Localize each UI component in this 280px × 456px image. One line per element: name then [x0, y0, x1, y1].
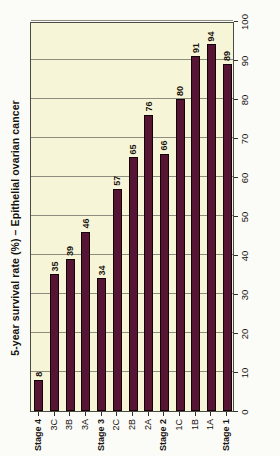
category-axis-tick [148, 412, 149, 416]
category-axis-tick [54, 412, 55, 416]
category-axis-label: 3C [49, 419, 59, 431]
category-axis-tick [210, 412, 211, 416]
bar-slot: 91 [191, 21, 200, 411]
bar-slot: 35 [50, 21, 59, 411]
category-axis-label: 1C [174, 419, 184, 431]
value-axis-tick-label: 10 [239, 368, 250, 379]
category-axis-tick [85, 412, 86, 416]
value-axis-tick [234, 177, 238, 178]
category-axis-label: Stage 4 [33, 419, 43, 451]
bar[interactable] [144, 115, 153, 411]
plot-area: 8994918066766557344639358 [30, 22, 234, 412]
bar-slot: 34 [97, 21, 106, 411]
value-axis-tick [234, 216, 238, 217]
value-axis-tick [234, 138, 238, 139]
bar[interactable] [129, 158, 138, 412]
category-axis-tick [116, 412, 117, 416]
category-axis-label: Stage 2 [158, 419, 168, 451]
bar[interactable] [113, 189, 122, 411]
bar[interactable] [66, 259, 75, 411]
value-axis-tick-label: 30 [239, 290, 250, 301]
chart-title: 5-year survival rate (%) – Epithelial ov… [9, 0, 21, 456]
bar[interactable] [160, 154, 169, 411]
value-axis-tick [234, 372, 238, 373]
rotated-figure-wrapper: 5-year survival rate (%) – Epithelial ov… [0, 0, 280, 456]
bar-value-label: 80 [175, 86, 185, 99]
value-axis-tick-label: 90 [239, 56, 250, 67]
bar[interactable] [207, 44, 216, 411]
bar-value-label: 46 [81, 219, 91, 232]
bar-slot: 89 [223, 21, 232, 411]
bar[interactable] [34, 380, 43, 411]
category-axis-label: 2A [143, 419, 153, 430]
bar[interactable] [176, 99, 185, 411]
category-axis-tick [179, 412, 180, 416]
bar-value-label: 66 [159, 141, 169, 154]
bar-value-label: 65 [128, 144, 138, 157]
value-axis-tick-label: 0 [239, 409, 250, 414]
bar-value-label: 91 [191, 43, 201, 56]
bar-value-label: 57 [112, 176, 122, 189]
value-axis: 0102030405060708090100 [234, 22, 260, 412]
value-axis-tick-label: 80 [239, 95, 250, 106]
value-axis-tick-label: 20 [239, 329, 250, 340]
value-axis-tick [234, 60, 238, 61]
bar-value-label: 39 [65, 246, 75, 259]
bar-value-label: 89 [222, 51, 232, 64]
bar-slot: 94 [207, 21, 216, 411]
value-axis-tick [234, 294, 238, 295]
category-axis-tick [163, 412, 164, 416]
value-axis-tick [234, 333, 238, 334]
category-axis-label: 3B [64, 419, 74, 430]
value-axis-tick-label: 70 [239, 134, 250, 145]
bar-value-label: 35 [50, 261, 60, 274]
value-axis-tick-label: 100 [239, 14, 250, 30]
bar-value-label: 76 [144, 102, 154, 115]
value-axis-tick [234, 411, 238, 412]
bars-layer: 8994918066766557344639358 [31, 23, 233, 411]
value-axis-tick [234, 99, 238, 100]
category-axis-label: 2C [111, 419, 121, 431]
category-axis-tick [195, 412, 196, 416]
bar-value-label: 94 [206, 31, 216, 44]
category-axis-tick [101, 412, 102, 416]
bar[interactable] [81, 232, 90, 411]
category-axis-label: 1B [190, 419, 200, 430]
bar[interactable] [191, 56, 200, 411]
bar-slot: 39 [66, 21, 75, 411]
value-axis-tick [234, 255, 238, 256]
category-axis-label: 2B [127, 419, 137, 430]
bar-value-label: 34 [97, 265, 107, 278]
bar[interactable] [50, 275, 59, 412]
category-axis-label: Stage 3 [96, 419, 106, 451]
value-axis-tick-label: 50 [239, 212, 250, 223]
category-axis-tick [226, 412, 227, 416]
bar-slot: 80 [176, 21, 185, 411]
bar-value-label: 8 [34, 372, 44, 380]
category-axis-label: Stage 1 [221, 419, 231, 451]
category-axis-label: 1A [205, 419, 215, 430]
category-axis-tick [132, 412, 133, 416]
chart-figure: 5-year survival rate (%) – Epithelial ov… [0, 0, 280, 456]
bar[interactable] [97, 278, 106, 411]
bar-slot: 57 [113, 21, 122, 411]
category-axis-label: 3A [80, 419, 90, 430]
category-axis: Stage 11A1B1CStage 22A2B2CStage 33A3B3CS… [30, 412, 234, 456]
bar-slot: 76 [144, 21, 153, 411]
bar-slot: 65 [129, 21, 138, 411]
category-axis-tick [38, 412, 39, 416]
category-axis-tick [69, 412, 70, 416]
value-axis-tick-label: 40 [239, 251, 250, 262]
bar-slot: 46 [81, 21, 90, 411]
bar[interactable] [223, 64, 232, 411]
bar-slot: 8 [34, 21, 43, 411]
value-axis-tick [234, 21, 238, 22]
value-axis-tick-label: 60 [239, 173, 250, 184]
bar-slot: 66 [160, 21, 169, 411]
